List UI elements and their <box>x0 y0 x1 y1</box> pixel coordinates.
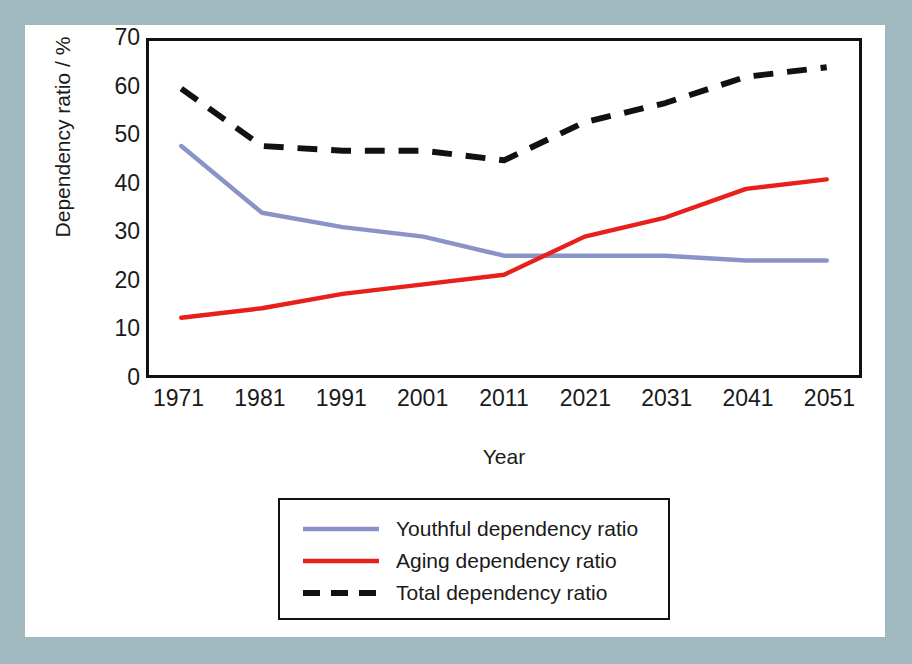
x-tick-label: 2031 <box>622 387 712 410</box>
y-tick-label: 30 <box>88 220 140 243</box>
legend-label: Youthful dependency ratio <box>396 517 638 541</box>
plot-lines <box>149 41 859 375</box>
x-tick-label: 2011 <box>459 387 549 410</box>
plot-area <box>146 38 862 378</box>
figure-mount: Dependency ratio / % 010203040506070 197… <box>0 0 912 664</box>
y-tick-label: 10 <box>88 317 140 340</box>
y-axis-title: Dependency ratio / % <box>51 7 75 267</box>
x-axis-title: Year <box>146 445 862 469</box>
x-tick-label: 2051 <box>784 387 874 410</box>
legend-label: Total dependency ratio <box>396 581 607 605</box>
y-tick-label: 20 <box>88 269 140 292</box>
legend-item[interactable]: Total dependency ratio <box>280 577 668 609</box>
y-axis-tick-labels: 010203040506070 <box>80 25 140 637</box>
dashed-line-swatch <box>302 584 380 602</box>
legend-item[interactable]: Aging dependency ratio <box>280 545 668 577</box>
y-tick-label: 40 <box>88 172 140 195</box>
y-tick-label: 50 <box>88 123 140 146</box>
y-tick-label: 0 <box>88 366 140 389</box>
x-tick-label: 2001 <box>378 387 468 410</box>
y-tick-label: 70 <box>88 26 140 49</box>
x-tick-label: 2041 <box>703 387 793 410</box>
dependency-ratio-line-chart: Dependency ratio / % 010203040506070 197… <box>25 25 885 637</box>
series-line <box>181 179 826 317</box>
x-tick-label: 1981 <box>215 387 305 410</box>
legend-label: Aging dependency ratio <box>396 549 617 573</box>
solid-line-swatch <box>302 520 380 538</box>
x-tick-label: 1991 <box>296 387 386 410</box>
x-tick-label: 1971 <box>134 387 224 410</box>
y-tick-label: 60 <box>88 75 140 98</box>
chart-legend: Youthful dependency ratioAging dependenc… <box>278 498 670 620</box>
x-tick-label: 2021 <box>540 387 630 410</box>
legend-item[interactable]: Youthful dependency ratio <box>280 513 668 545</box>
figure-card: Dependency ratio / % 010203040506070 197… <box>25 25 885 637</box>
x-axis-tick-labels: 197119811991200120112021203120412051 <box>146 387 862 421</box>
series-line <box>181 67 826 160</box>
solid-line-swatch <box>302 552 380 570</box>
